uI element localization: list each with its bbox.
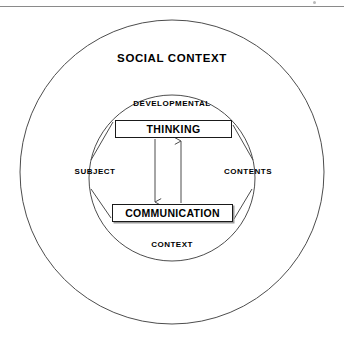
label-social-context: SOCIAL CONTEXT: [0, 53, 344, 65]
label-developmental: DEVELOPMENTAL: [0, 100, 344, 108]
label-context: CONTEXT: [0, 241, 344, 249]
node-communication: COMMUNICATION: [112, 204, 233, 222]
connector-subject-to-communication: [91, 189, 111, 218]
connector-contents-to-communication: [234, 189, 252, 219]
label-contents: CONTENTS: [214, 168, 282, 176]
node-thinking: THINKING: [115, 120, 232, 138]
diagram-page: SOCIAL CONTEXT DEVELOPMENTAL SUBJECT CON…: [0, 0, 344, 341]
connector-thinking-to-contents: [233, 125, 253, 160]
label-subject: SUBJECT: [62, 168, 128, 176]
connector-thinking-to-subject: [91, 122, 113, 160]
